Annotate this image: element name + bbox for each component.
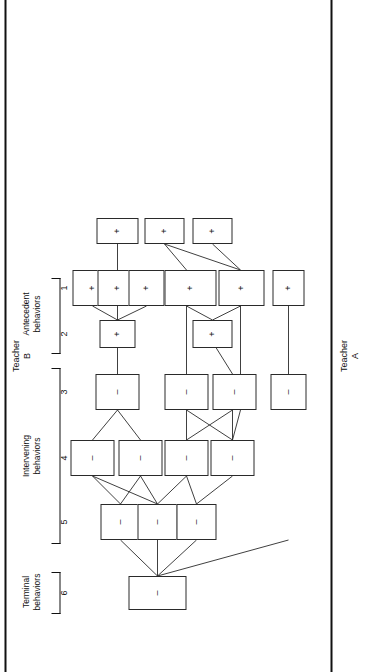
node-A3-c[interactable]: – bbox=[212, 374, 256, 410]
bracket-antecedent bbox=[48, 278, 60, 354]
node-sign: + bbox=[207, 228, 216, 233]
node-sign: + bbox=[207, 331, 216, 336]
node-A0-c[interactable]: + bbox=[192, 218, 232, 244]
node-A2-a[interactable]: + bbox=[99, 320, 135, 348]
node-sign: – bbox=[227, 456, 236, 461]
node-A6-root[interactable]: – bbox=[128, 576, 186, 610]
node-sign: + bbox=[112, 331, 121, 336]
node-sign: + bbox=[87, 285, 96, 290]
node-A5-c[interactable]: – bbox=[176, 504, 216, 540]
node-sign: – bbox=[152, 591, 161, 596]
teacher-label-A: Teacher A bbox=[338, 340, 360, 372]
node-A0-b[interactable]: + bbox=[144, 218, 184, 244]
node-A3-a[interactable]: – bbox=[95, 374, 139, 410]
node-A1-d[interactable]: + bbox=[164, 270, 216, 306]
node-sign: – bbox=[152, 520, 161, 525]
node-sign: + bbox=[112, 228, 121, 233]
node-A4-b[interactable]: – bbox=[118, 440, 162, 476]
node-A0-a[interactable]: + bbox=[96, 218, 138, 244]
group-label-terminal: Terminal behaviors bbox=[20, 556, 41, 628]
node-sign: + bbox=[185, 285, 194, 290]
group-label-antecedent: Antecedent behaviors bbox=[20, 276, 41, 352]
bracket-intervening bbox=[48, 368, 60, 544]
node-A1-e[interactable]: + bbox=[218, 270, 264, 306]
node-sign: – bbox=[229, 390, 238, 395]
node-sign: – bbox=[181, 456, 190, 461]
node-sign: + bbox=[283, 285, 292, 290]
node-A4-c[interactable]: – bbox=[164, 440, 208, 476]
node-A1-f[interactable]: + bbox=[272, 270, 304, 306]
node-A5-a[interactable]: – bbox=[100, 504, 140, 540]
node-sign: – bbox=[87, 456, 96, 461]
node-sign: + bbox=[159, 228, 168, 233]
node-sign: – bbox=[112, 390, 121, 395]
node-A3-d[interactable]: – bbox=[270, 374, 306, 410]
group-label-intervening: Intervening behaviors bbox=[20, 420, 41, 492]
node-sign: – bbox=[181, 390, 190, 395]
node-sign: – bbox=[135, 456, 144, 461]
node-A2-b[interactable]: + bbox=[192, 320, 232, 348]
node-A5-b[interactable]: – bbox=[137, 504, 177, 540]
bracket-terminal bbox=[48, 572, 60, 614]
node-A4-a[interactable]: – bbox=[70, 440, 114, 476]
node-sign: + bbox=[141, 285, 150, 290]
node-sign: – bbox=[115, 520, 124, 525]
node-A3-b[interactable]: – bbox=[164, 374, 208, 410]
node-sign: + bbox=[112, 285, 121, 290]
node-A1-c[interactable]: + bbox=[128, 270, 164, 306]
node-sign: – bbox=[283, 390, 292, 395]
rotated-figure-canvas: – – – – – – – – – – – – + + + + + + + + … bbox=[0, 0, 365, 672]
node-sign: – bbox=[191, 520, 200, 525]
figure-root: – – – – – – – – – – – – + + + + + + + + … bbox=[0, 0, 365, 672]
node-sign: + bbox=[236, 285, 245, 290]
node-A4-d[interactable]: – bbox=[210, 440, 254, 476]
